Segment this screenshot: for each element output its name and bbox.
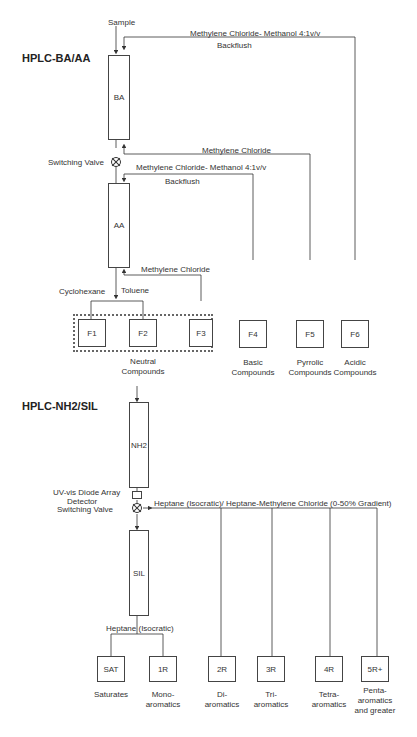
switching-valve-label-2: Switching Valve [57,505,113,515]
fraction-label-f5: F5 [305,330,314,339]
ba-backflush-label: Backflush [217,41,252,51]
column-sil: SIL [129,530,149,616]
f6-desc-line1: Acidic [333,358,376,368]
fraction-label-1r: 1R [158,665,168,674]
fraction-box-f6: F6 [341,320,369,348]
fraction-desc-sat: Saturates [94,690,128,700]
ba-backflush-solvent-label: Methylene Chloride- Methanol 4:1v/v [190,29,320,39]
5r-desc-line3: and greater [355,706,396,716]
sat-desc-line1: Saturates [94,690,128,700]
fraction-label-sat: SAT [104,665,119,674]
fraction-box-sat: SAT [97,656,125,682]
fraction-label-2r: 2R [217,665,227,674]
fraction-box-f5: F5 [296,320,324,348]
fraction-label-3r: 3R [266,665,276,674]
1r-desc-line2: aromatics [146,700,181,710]
4r-desc-line1: Tetra- [312,690,347,700]
fraction-box-3r: 3R [257,656,285,682]
uv-vis-detector-icon [132,491,142,499]
column-aa: AA [108,183,130,268]
section-title-ba-aa: HPLC-BA/AA [22,52,90,64]
column-ba: BA [108,55,130,140]
sample-label: Sample [108,18,135,28]
fraction-label-f1: F1 [87,329,96,338]
f4-desc-line2: Compounds [231,368,274,378]
5r-desc-line2: aromatics [355,696,396,706]
neutral-compounds-label: Neutral Compounds [121,357,164,377]
toluene-label: Toluene [121,286,149,296]
fraction-label-f6: F6 [350,330,359,339]
column-aa-label: AA [114,221,125,230]
fraction-box-1r: 1R [149,656,177,682]
fraction-desc-1r: Mono- aromatics [146,690,181,710]
fraction-box-f4: F4 [239,320,267,348]
f5-desc-line1: Pyrrolic [288,358,331,368]
hplc-separation-diagram: HPLC-BA/AA Sample Methylene Chloride- Me… [0,0,417,737]
neutral-label-line1: Neutral [121,357,164,367]
fraction-desc-3r: Tri- aromatics [254,690,289,710]
fraction-box-f1: F1 [78,319,106,347]
2r-desc-line2: aromatics [205,700,240,710]
aa-forward-solvent-label: Methylene Chloride [141,265,210,275]
isocratic-solvent-label: Heptane (Isocratic) [106,624,174,634]
cyclohexane-label: Cyclohexane [59,287,105,297]
aa-backflush-solvent-label: Methylene Chloride- Methanol 4:1v/v [136,163,266,173]
ba-forward-solvent-label: Methylene Chloride [202,146,271,156]
fraction-box-f2: F2 [129,319,157,347]
fraction-desc-f4: Basic Compounds [231,358,274,378]
column-nh2: NH2 [129,402,149,488]
3r-desc-line2: aromatics [254,700,289,710]
f6-desc-line2: Compounds [333,368,376,378]
switching-valve-icon [111,157,121,167]
2r-desc-line1: Di- [205,690,240,700]
1r-desc-line1: Mono- [146,690,181,700]
fraction-box-2r: 2R [208,656,236,682]
fraction-label-f4: F4 [248,330,257,339]
fraction-desc-2r: Di- aromatics [205,690,240,710]
f5-desc-line2: Compounds [288,368,331,378]
fraction-box-4r: 4R [315,656,343,682]
switching-valve-icon-2 [132,503,142,513]
3r-desc-line1: Tri- [254,690,289,700]
switching-valve-label-1: Switching Valve [48,158,104,168]
5r-desc-line1: Penta- [355,686,396,696]
neutral-label-line2: Compounds [121,367,164,377]
section-title-nh2-sil: HPLC-NH2/SIL [22,400,98,412]
column-nh2-label: NH2 [131,441,147,450]
gradient-solvent-label: Heptane (Isocratic)/ Heptane-Methylene C… [154,499,391,509]
fraction-desc-5r-plus: Penta- aromatics and greater [355,686,396,716]
fraction-box-f3: F3 [189,319,213,347]
4r-desc-line2: aromatics [312,700,347,710]
fraction-label-5r-plus: 5R+ [368,665,383,674]
fraction-desc-4r: Tetra- aromatics [312,690,347,710]
column-sil-label: SIL [133,569,145,578]
fraction-label-f2: F2 [138,329,147,338]
fraction-label-4r: 4R [324,665,334,674]
column-ba-label: BA [114,93,125,102]
fraction-desc-f5: Pyrrolic Compounds [288,358,331,378]
fraction-label-f3: F3 [196,329,205,338]
f4-desc-line1: Basic [231,358,274,368]
fraction-box-5r-plus: 5R+ [361,656,389,682]
aa-backflush-label: Backflush [165,177,200,187]
fraction-desc-f6: Acidic Compounds [333,358,376,378]
